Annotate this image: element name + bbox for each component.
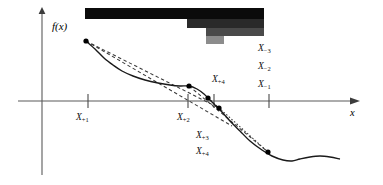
- redaction-bar-2: [187, 19, 264, 28]
- curve-marker-2: [186, 83, 191, 88]
- x-axis-arrowhead: [350, 97, 360, 104]
- redaction-bar-1: [85, 8, 264, 19]
- secant-line-2: [86, 41, 219, 108]
- secant-lines-group: [86, 41, 268, 152]
- curves-group: [83, 38, 340, 161]
- redaction-bar-4: [206, 36, 224, 44]
- figure-container: f(x) x X+1X+2X+3X+4X+4 X−3X−2X−1: [0, 0, 383, 185]
- x-label-plus-4-subscript: +4: [218, 78, 225, 85]
- redaction-bar-3: [206, 28, 264, 36]
- x-label-minus-1: X−1: [258, 79, 271, 90]
- x-tick-label-1: X+1: [76, 112, 89, 123]
- curve-marker-1: [83, 38, 88, 43]
- x-label-minus-1-subscript: −1: [264, 83, 271, 90]
- data-point-markers: [83, 38, 270, 154]
- x-label-minus-2: X−2: [258, 61, 271, 72]
- x-label-minus-2-subscript: −2: [264, 65, 271, 72]
- x-tick-label-2: X+2: [177, 112, 190, 123]
- x-tick-label-2-subscript: +2: [183, 116, 190, 123]
- x-axis-label: x: [350, 107, 355, 118]
- x-tick-label-3-subscript: +3: [202, 134, 209, 141]
- x-label-minus-3: X−3: [258, 43, 271, 54]
- x-label-minus-3-subscript: −3: [264, 47, 271, 54]
- curve-marker-5: [265, 149, 270, 154]
- x-label-plus-4: X+4: [212, 74, 225, 85]
- curve-marker-4: [216, 105, 221, 110]
- y-axis-arrowhead: [39, 7, 46, 14]
- axes-group: [18, 7, 360, 175]
- x-tick-label-3: X+3: [196, 130, 209, 141]
- y-axis-label: f(x): [52, 20, 67, 32]
- x-tick-label-4: X+4: [196, 146, 209, 157]
- curve-marker-3: [205, 95, 210, 100]
- x-tick-label-4-subscript: +4: [202, 150, 209, 157]
- x-tick-label-1-subscript: +1: [82, 116, 89, 123]
